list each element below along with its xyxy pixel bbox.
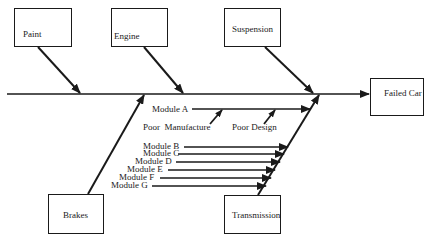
- paint-bone-arrow: [38, 47, 80, 93]
- module-g-label: Module G: [111, 181, 148, 190]
- suspension-bone-arrow: [265, 47, 313, 93]
- transmission-bone-arrow: [258, 95, 319, 195]
- transmission-box: Transmission: [224, 195, 281, 234]
- engine-label: Engine: [114, 31, 140, 41]
- paint-box: Paint: [14, 8, 72, 47]
- poor-manufacture-arrow: [210, 110, 222, 124]
- failed-car-label: Failed Car: [384, 88, 422, 98]
- module-a-label: Module A: [152, 105, 188, 114]
- poor-manufacture-label: Poor Manufacture: [143, 123, 210, 132]
- engine-box: Engine: [111, 8, 168, 47]
- brakes-box: Brakes: [48, 194, 104, 234]
- poor-design-label: Poor Design: [232, 123, 277, 132]
- failed-car-box: Failed Car: [370, 78, 424, 116]
- suspension-box: Suspension: [224, 8, 281, 47]
- brakes-label: Brakes: [63, 210, 88, 220]
- transmission-label: Transmission: [232, 210, 280, 220]
- paint-label: Paint: [23, 29, 42, 39]
- suspension-label: Suspension: [232, 24, 273, 34]
- engine-bone-arrow: [144, 47, 183, 93]
